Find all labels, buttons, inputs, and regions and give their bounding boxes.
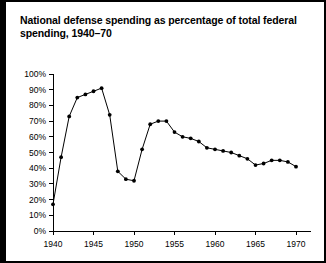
data-point-markers bbox=[51, 86, 298, 206]
y-tick-label: 60% bbox=[29, 132, 46, 142]
data-point bbox=[286, 160, 290, 164]
y-tick-label: 10% bbox=[29, 210, 46, 220]
data-point bbox=[148, 122, 152, 126]
data-point bbox=[229, 151, 233, 155]
data-point bbox=[237, 154, 241, 158]
y-axis-ticks: 0%10%20%30%40%50%60%70%80%90%100% bbox=[24, 69, 53, 236]
y-tick-label: 50% bbox=[29, 148, 46, 158]
data-point bbox=[189, 136, 193, 140]
x-tick-label: 1940 bbox=[44, 239, 63, 249]
x-tick-label: 1945 bbox=[84, 239, 103, 249]
data-point bbox=[108, 113, 112, 117]
data-point bbox=[213, 147, 217, 151]
chart-canvas: National defense spending as percentage … bbox=[6, 2, 324, 261]
data-point bbox=[75, 96, 79, 100]
data-point bbox=[254, 163, 258, 167]
data-point bbox=[262, 162, 266, 166]
data-point bbox=[116, 169, 120, 173]
data-point bbox=[197, 140, 201, 144]
data-point bbox=[165, 119, 169, 123]
y-tick-label: 70% bbox=[29, 116, 46, 126]
data-point bbox=[156, 119, 160, 123]
data-point bbox=[278, 158, 282, 162]
data-point bbox=[173, 130, 177, 134]
data-point bbox=[84, 93, 88, 97]
x-tick-label: 1950 bbox=[125, 239, 144, 249]
y-tick-label: 80% bbox=[29, 100, 46, 110]
x-axis-ticks: 1940194519501955196019651970 bbox=[44, 231, 306, 249]
plot-area: 0%10%20%30%40%50%60%70%80%90%100% 194019… bbox=[6, 2, 324, 261]
data-point bbox=[124, 177, 128, 181]
data-point bbox=[294, 165, 298, 169]
data-point bbox=[59, 155, 63, 159]
chart-figure: National defense spending as percentage … bbox=[0, 0, 326, 263]
y-tick-label: 40% bbox=[29, 163, 46, 173]
data-point bbox=[181, 135, 185, 139]
data-point bbox=[221, 149, 225, 153]
x-tick-label: 1970 bbox=[287, 239, 306, 249]
data-point bbox=[132, 179, 136, 183]
line-chart-svg: 0%10%20%30%40%50%60%70%80%90%100% 194019… bbox=[6, 2, 326, 263]
data-point bbox=[246, 157, 250, 161]
data-point bbox=[100, 86, 104, 90]
x-tick-label: 1955 bbox=[165, 239, 184, 249]
data-point bbox=[270, 158, 274, 162]
y-tick-label: 0% bbox=[34, 226, 47, 236]
defense-spending-line bbox=[53, 88, 296, 204]
data-point bbox=[205, 146, 209, 150]
y-tick-label: 90% bbox=[29, 85, 46, 95]
x-tick-label: 1960 bbox=[206, 239, 225, 249]
x-tick-label: 1965 bbox=[246, 239, 265, 249]
data-point bbox=[51, 202, 55, 206]
y-tick-label: 100% bbox=[24, 69, 46, 79]
data-point bbox=[67, 114, 71, 118]
data-point bbox=[140, 147, 144, 151]
data-point bbox=[92, 89, 96, 93]
y-tick-label: 30% bbox=[29, 179, 46, 189]
y-tick-label: 20% bbox=[29, 195, 46, 205]
